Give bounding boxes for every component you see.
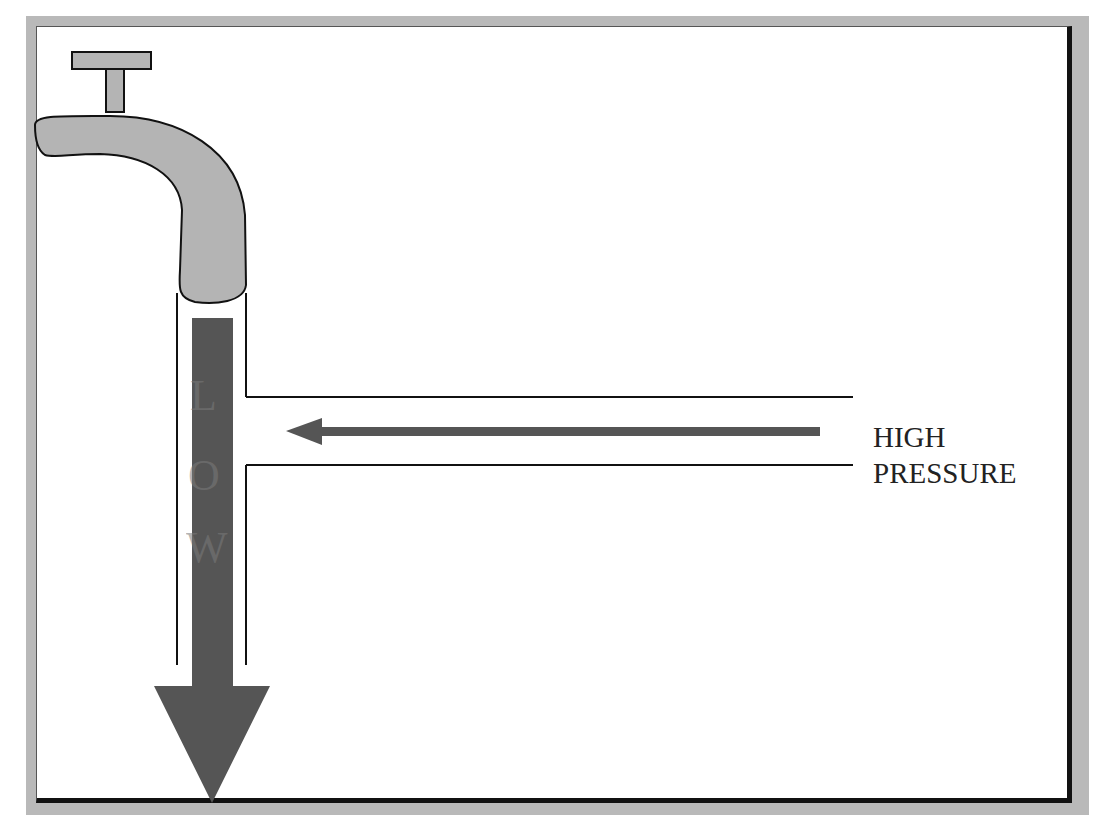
diagram: L O W HIGH PRESSURE bbox=[0, 0, 1113, 825]
pressure-arrow-shaft bbox=[318, 427, 820, 436]
faucet-handle-bar bbox=[72, 52, 151, 69]
faucet-spout bbox=[35, 116, 246, 303]
flow-letter-l: L bbox=[190, 371, 217, 420]
flow-letter-o: O bbox=[188, 451, 220, 500]
high-pressure-label-line1: HIGH bbox=[873, 421, 946, 453]
pressure-arrow-head bbox=[286, 418, 322, 445]
faucet-handle-stem bbox=[106, 69, 124, 112]
flow-letter-w: W bbox=[186, 523, 228, 572]
high-pressure-label-line2: PRESSURE bbox=[873, 457, 1016, 489]
